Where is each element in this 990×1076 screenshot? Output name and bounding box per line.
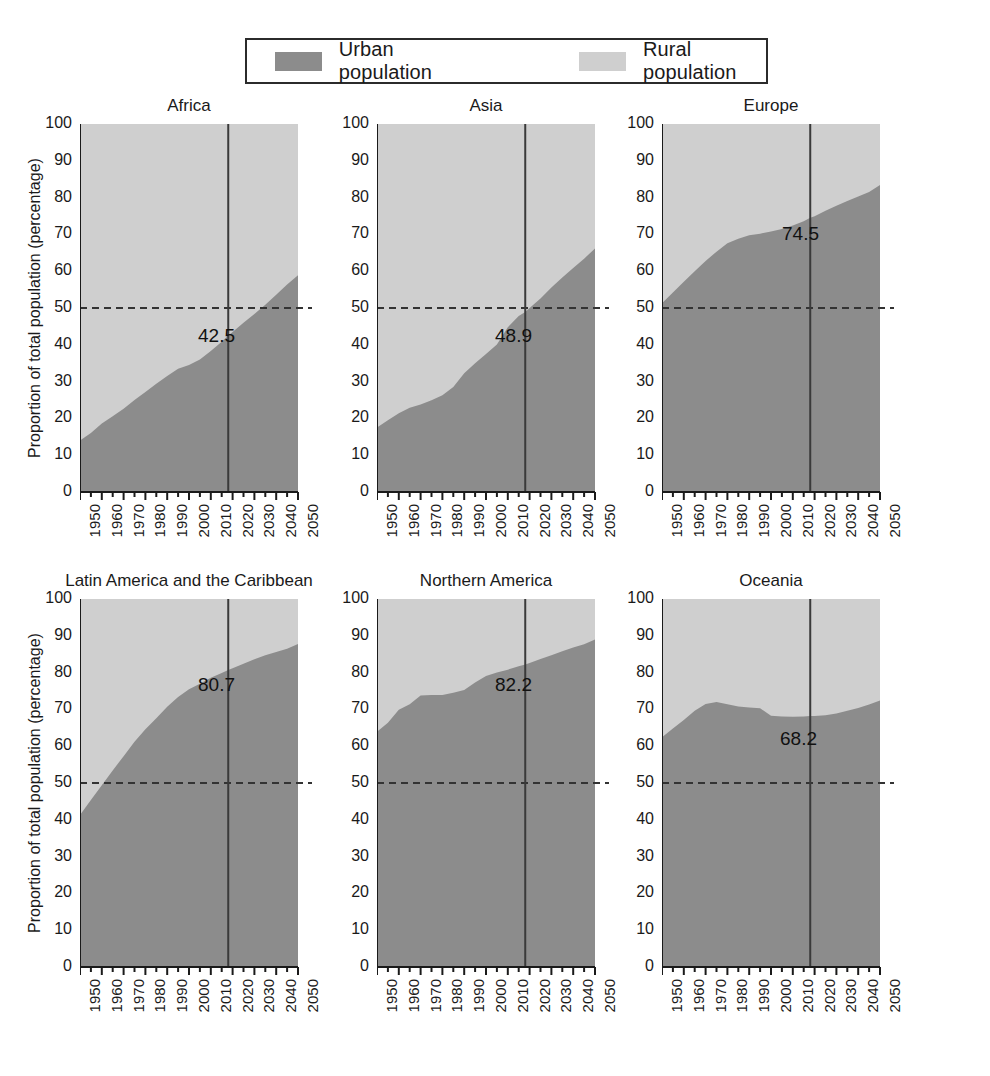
x-tick-label: 2010 <box>217 979 234 1031</box>
x-tick-label: 2000 <box>777 504 794 556</box>
x-tick-label: 2020 <box>536 979 553 1031</box>
y-tick-label: 60 <box>614 736 654 754</box>
y-tick-label: 60 <box>614 261 654 279</box>
y-tick-label: 60 <box>329 261 369 279</box>
x-tick-label: 1990 <box>470 504 487 556</box>
y-tick-label: 0 <box>32 957 72 975</box>
x-tick-label: 1970 <box>427 504 444 556</box>
area-chart: 74.5 <box>662 124 894 514</box>
x-tick-label: 1960 <box>108 504 125 556</box>
y-tick-label: 50 <box>32 773 72 791</box>
x-tick-label: 1990 <box>173 979 190 1031</box>
x-tick-label: 2010 <box>799 504 816 556</box>
panel-title: Latin America and the Caribbean <box>40 571 338 591</box>
x-tick-label: 2020 <box>239 504 256 556</box>
legend-swatch-urban <box>275 52 322 71</box>
x-tick-label: 2000 <box>195 979 212 1031</box>
y-tick-label: 80 <box>329 663 369 681</box>
y-tick-label: 0 <box>614 957 654 975</box>
x-tick-label: 1970 <box>130 504 147 556</box>
x-tick-label: 2000 <box>777 979 794 1031</box>
area-chart: 48.9 <box>377 124 609 514</box>
y-tick-label: 0 <box>614 482 654 500</box>
y-tick-label: 20 <box>32 408 72 426</box>
y-tick-label: 30 <box>32 847 72 865</box>
x-tick-label: 1990 <box>470 979 487 1031</box>
y-tick-label: 50 <box>329 773 369 791</box>
x-tick-label: 1980 <box>733 979 750 1031</box>
value-label-2018: 68.2 <box>780 728 817 749</box>
x-tick-label: 2050 <box>601 504 618 556</box>
area-chart: 80.7 <box>80 599 312 989</box>
y-tick-label: 100 <box>614 114 654 132</box>
x-tick-label: 2040 <box>864 504 881 556</box>
y-tick-label: 30 <box>614 372 654 390</box>
x-tick-label: 1950 <box>383 979 400 1031</box>
y-tick-label: 50 <box>32 298 72 316</box>
x-tick-label: 1990 <box>755 979 772 1031</box>
y-tick-label: 20 <box>614 883 654 901</box>
y-tick-label: 90 <box>329 151 369 169</box>
x-tick-label: 1980 <box>448 979 465 1031</box>
x-tick-label: 2020 <box>821 979 838 1031</box>
y-tick-label: 50 <box>614 773 654 791</box>
y-tick-label: 20 <box>329 408 369 426</box>
y-tick-label: 80 <box>614 188 654 206</box>
y-tick-label: 50 <box>329 298 369 316</box>
y-tick-label: 60 <box>32 736 72 754</box>
x-tick-label: 1990 <box>173 504 190 556</box>
y-tick-label: 40 <box>32 335 72 353</box>
x-tick-label: 2050 <box>304 979 321 1031</box>
value-label-2018: 48.9 <box>495 325 532 346</box>
legend-label-urban: Urban population <box>339 38 468 84</box>
y-tick-label: 10 <box>329 445 369 463</box>
y-tick-label: 10 <box>614 920 654 938</box>
x-tick-label: 1990 <box>755 504 772 556</box>
y-tick-label: 100 <box>32 589 72 607</box>
y-tick-label: 70 <box>614 699 654 717</box>
y-tick-label: 20 <box>32 883 72 901</box>
y-tick-label: 100 <box>329 114 369 132</box>
x-tick-label: 1980 <box>733 504 750 556</box>
x-tick-label: 1970 <box>427 979 444 1031</box>
y-tick-label: 30 <box>329 372 369 390</box>
y-tick-label: 30 <box>614 847 654 865</box>
x-tick-label: 1960 <box>690 979 707 1031</box>
x-tick-label: 1980 <box>151 504 168 556</box>
panel-title: Europe <box>622 96 920 116</box>
panel-title: Africa <box>40 96 338 116</box>
value-label-2018: 74.5 <box>782 223 819 244</box>
y-tick-label: 10 <box>614 445 654 463</box>
x-tick-label: 2010 <box>514 504 531 556</box>
x-tick-label: 2050 <box>601 979 618 1031</box>
x-tick-label: 1950 <box>86 979 103 1031</box>
y-tick-label: 70 <box>32 699 72 717</box>
x-tick-label: 1950 <box>668 979 685 1031</box>
x-tick-label: 2020 <box>239 979 256 1031</box>
area-chart: 82.2 <box>377 599 609 989</box>
y-tick-label: 40 <box>329 335 369 353</box>
y-tick-label: 40 <box>614 335 654 353</box>
y-tick-label: 100 <box>329 589 369 607</box>
y-tick-label: 90 <box>614 151 654 169</box>
chart-legend: Urban population Rural population <box>245 38 768 84</box>
panel-row: Latin America and the CaribbeanProportio… <box>0 571 990 1046</box>
legend-entry-rural: Rural population <box>579 38 766 84</box>
value-label-2018: 80.7 <box>198 674 235 695</box>
legend-entry-urban: Urban population <box>275 38 467 84</box>
x-tick-label: 2030 <box>260 979 277 1031</box>
y-tick-label: 100 <box>614 589 654 607</box>
value-label-2018: 82.2 <box>495 674 532 695</box>
x-tick-label: 2000 <box>492 504 509 556</box>
y-tick-label: 70 <box>32 224 72 242</box>
x-tick-label: 2040 <box>864 979 881 1031</box>
x-tick-label: 2030 <box>557 979 574 1031</box>
x-tick-label: 2010 <box>514 979 531 1031</box>
x-tick-label: 1970 <box>712 979 729 1031</box>
x-tick-label: 2030 <box>842 504 859 556</box>
y-tick-label: 70 <box>614 224 654 242</box>
x-tick-label: 1970 <box>712 504 729 556</box>
legend-label-rural: Rural population <box>643 38 766 84</box>
x-tick-label: 1980 <box>448 504 465 556</box>
x-tick-label: 1980 <box>151 979 168 1031</box>
